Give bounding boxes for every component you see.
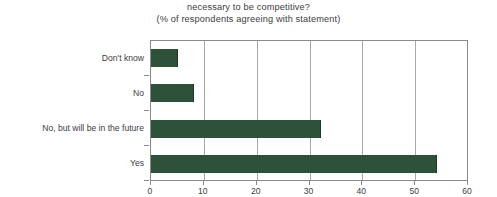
x-axis-label-30: 30 [304, 186, 314, 196]
bar-no [151, 84, 194, 102]
x-axis-label-10: 10 [198, 186, 208, 196]
x-axis-tick-40 [361, 181, 362, 185]
y-axis-tick-1 [144, 75, 149, 76]
chart-title: necessary to be competitive? (% of respo… [0, 0, 497, 25]
bar-chart: necessary to be competitive? (% of respo… [0, 0, 497, 197]
y-axis-tick-3 [144, 145, 149, 146]
x-axis: 0 10 20 30 40 50 60 [150, 181, 468, 197]
x-axis-tick-60 [467, 181, 468, 185]
chart-title-line-1: necessary to be competitive? [0, 0, 497, 13]
bar-dont-know [151, 49, 178, 67]
x-axis-label-60: 60 [462, 186, 472, 196]
x-axis-tick-50 [414, 181, 415, 185]
y-axis-label-dont-know: Don't know [0, 53, 144, 63]
y-axis-label-future: No, but will be in the future [0, 123, 144, 133]
x-axis-tick-20 [256, 181, 257, 185]
y-axis: Don't know No No, but will be in the fut… [0, 40, 144, 181]
x-axis-tick-0 [150, 181, 151, 185]
bar-row-no [151, 76, 467, 111]
y-axis-tick-4 [144, 180, 149, 181]
y-axis-label-yes: Yes [0, 158, 144, 168]
x-axis-label-50: 50 [409, 186, 419, 196]
bar-future [151, 120, 321, 138]
y-axis-tick-2 [144, 110, 149, 111]
bar-row-yes [151, 147, 467, 182]
chart-title-line-2: (% of respondents agreeing with statemen… [0, 13, 497, 25]
x-axis-label-40: 40 [357, 186, 367, 196]
plot-area [150, 40, 468, 181]
x-axis-tick-30 [309, 181, 310, 185]
x-axis-label-20: 20 [251, 186, 261, 196]
bar-yes [151, 155, 437, 173]
y-axis-label-no: No [0, 88, 144, 98]
bar-row-dont-know [151, 41, 467, 76]
bar-row-future [151, 112, 467, 147]
x-axis-tick-10 [203, 181, 204, 185]
x-axis-label-0: 0 [148, 186, 153, 196]
bars-layer [151, 41, 467, 180]
